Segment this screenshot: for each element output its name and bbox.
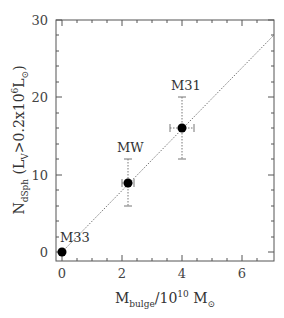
- fit-line: [62, 35, 274, 252]
- y-tick-label-0: 0: [40, 245, 48, 260]
- data-point-mw: [124, 179, 133, 188]
- label-mw: MW: [117, 140, 144, 155]
- y-tick-label-20: 20: [31, 90, 48, 105]
- x-axis-title: Mbulge/1010 M⊙: [115, 289, 215, 309]
- x-tick-label-0: 0: [58, 266, 66, 281]
- y-ticks: [56, 20, 274, 252]
- y-axis-title: NdSph (LV>0.2x106L⊙): [10, 65, 30, 214]
- x-tick-label-2: 2: [118, 266, 126, 281]
- x-ticks: [62, 20, 257, 261]
- y-tick-label-30: 30: [31, 13, 48, 28]
- data-point-m31: [178, 124, 187, 133]
- label-m31: M31: [171, 78, 201, 93]
- y-axis-title-group: NdSph (LV>0.2x106L⊙): [10, 65, 30, 214]
- data-point-m33: [58, 248, 67, 257]
- y-tick-label-10: 10: [31, 168, 48, 183]
- label-m33: M33: [60, 230, 90, 245]
- x-tick-label-6: 6: [238, 266, 246, 281]
- plot-frame: [56, 20, 274, 261]
- scatter-chart: 0 10 20 30 0 2 4 6 M33 MW M31 Mbulge/101…: [0, 0, 284, 318]
- x-tick-label-4: 4: [178, 266, 186, 281]
